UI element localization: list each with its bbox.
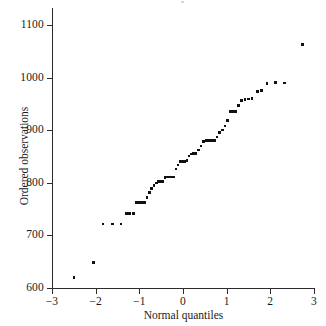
data-point (92, 261, 95, 264)
y-axis-label: Ordered observations (18, 66, 30, 246)
x-axis-label: Normal quantiles (52, 309, 315, 321)
data-point (162, 180, 165, 183)
data-point (200, 145, 203, 148)
y-tick-label-1100: 1100 (4, 19, 44, 31)
data-point (150, 187, 153, 190)
data-point (237, 104, 240, 107)
data-point (197, 149, 200, 152)
x-tick--1 (139, 289, 140, 294)
x-tick-1 (227, 289, 228, 294)
data-point (186, 159, 189, 162)
data-point (153, 184, 156, 187)
y-axis-line (52, 8, 53, 289)
y-tick-label-600: 600 (4, 282, 44, 294)
data-point (240, 99, 243, 102)
data-point (216, 136, 219, 139)
x-tick-label-2: 2 (257, 295, 283, 307)
data-point (260, 89, 263, 92)
data-point (132, 212, 135, 215)
data-point (125, 212, 128, 215)
data-point (175, 168, 178, 171)
qq-plot-figure: 60070080090010001100 −3−2−10123 Normal q… (0, 0, 326, 326)
data-point (247, 98, 250, 101)
data-point (256, 90, 259, 93)
y-tick-1000 (47, 78, 52, 79)
x-tick-label-0: 0 (170, 295, 196, 307)
data-point (274, 81, 277, 84)
data-point (128, 212, 131, 215)
data-point (226, 119, 229, 122)
x-tick-label-3: 3 (301, 295, 326, 307)
data-point (266, 82, 269, 85)
data-point (213, 139, 216, 142)
y-tick-900 (47, 130, 52, 131)
data-point (224, 125, 227, 128)
data-point (194, 152, 197, 155)
x-tick-label--2: −2 (83, 295, 109, 307)
plot-area: 60070080090010001100 −3−2−10123 Normal q… (0, 0, 326, 326)
data-point (148, 191, 151, 194)
data-point (301, 43, 304, 46)
y-tick-1100 (47, 25, 52, 26)
data-point (111, 223, 114, 226)
data-point (102, 223, 105, 226)
x-tick-label-1: 1 (214, 295, 240, 307)
y-tick-800 (47, 183, 52, 184)
x-tick-label--3: −3 (39, 295, 65, 307)
data-point (146, 196, 149, 199)
data-point (73, 276, 76, 279)
data-point (283, 82, 286, 85)
x-tick--3 (52, 289, 53, 294)
data-point (251, 97, 254, 100)
data-point (143, 201, 146, 204)
data-point (244, 98, 247, 101)
data-point (120, 223, 123, 226)
x-tick-0 (183, 289, 184, 294)
data-point (221, 129, 224, 132)
data-point (234, 110, 237, 113)
x-tick--2 (96, 289, 97, 294)
x-tick-2 (270, 289, 271, 294)
data-point (177, 164, 180, 167)
x-tick-3 (314, 289, 315, 294)
x-tick-label--1: −1 (126, 295, 152, 307)
y-tick-700 (47, 235, 52, 236)
data-point (173, 176, 176, 179)
